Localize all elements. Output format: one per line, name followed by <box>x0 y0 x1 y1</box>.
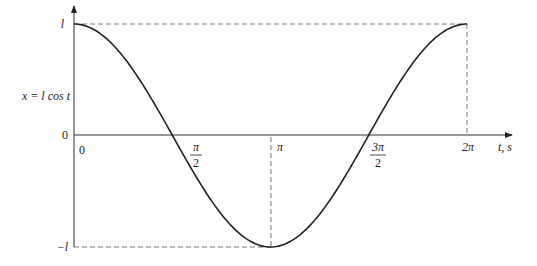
x-tick-3pi-half-num: 3π <box>371 140 385 154</box>
x-tick-2pi: 2π <box>462 140 475 154</box>
cosine-chart: l 0 −l x = l cos t 0 π 2 π 3π 2 2π t, s <box>0 0 537 266</box>
x-tick-zero: 0 <box>79 143 85 157</box>
y-axis-label: x = l cos t <box>21 89 71 103</box>
x-tick-3pi-half-den: 2 <box>375 156 381 170</box>
x-tick-pi-half-den: 2 <box>193 156 199 170</box>
y-tick-zero: 0 <box>62 128 68 142</box>
y-tick-minus-l: −l <box>57 240 69 254</box>
x-axis-label: t, s <box>498 140 512 154</box>
x-tick-pi-half-num: π <box>193 140 200 154</box>
y-tick-l: l <box>61 17 65 31</box>
x-tick-pi: π <box>277 140 284 154</box>
